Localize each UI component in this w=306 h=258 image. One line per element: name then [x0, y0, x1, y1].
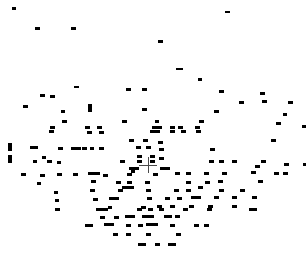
data-point	[204, 224, 209, 227]
data-point	[183, 208, 188, 211]
data-point	[232, 205, 237, 208]
data-point	[137, 155, 142, 158]
data-point	[49, 130, 54, 133]
data-point	[207, 208, 212, 211]
data-point	[55, 208, 60, 211]
data-point	[175, 172, 180, 175]
crosshair-vertical-arm	[148, 157, 149, 173]
data-point	[240, 189, 245, 192]
data-point	[126, 88, 131, 91]
data-point	[186, 181, 191, 184]
data-point	[214, 196, 219, 199]
data-point	[261, 160, 266, 163]
data-point	[97, 126, 102, 129]
data-point	[126, 233, 131, 236]
data-point	[58, 147, 63, 150]
data-point	[251, 171, 256, 174]
data-point	[175, 215, 180, 218]
data-point	[276, 122, 281, 125]
data-point	[118, 189, 123, 192]
data-point	[138, 243, 146, 246]
data-point	[33, 160, 37, 163]
data-point	[283, 172, 288, 175]
data-point	[142, 108, 147, 111]
data-point	[30, 146, 38, 149]
data-point	[177, 197, 182, 200]
data-point	[57, 161, 61, 164]
data-point	[146, 146, 151, 149]
data-point	[152, 126, 162, 129]
data-point	[209, 160, 214, 163]
data-point	[222, 172, 227, 175]
data-point	[219, 189, 224, 192]
data-point	[137, 160, 142, 163]
data-point	[194, 224, 199, 227]
data-point	[271, 139, 276, 142]
data-point	[108, 206, 112, 209]
data-point	[146, 189, 151, 192]
data-point	[150, 160, 155, 163]
data-point	[199, 120, 204, 123]
data-point	[90, 189, 95, 192]
data-point	[302, 125, 306, 128]
data-point	[8, 155, 12, 163]
data-point	[170, 205, 175, 208]
data-point	[131, 170, 135, 173]
data-point	[127, 181, 132, 184]
data-point	[170, 130, 175, 133]
data-point	[218, 180, 223, 183]
data-point	[283, 113, 287, 116]
data-point	[71, 27, 76, 30]
data-point	[191, 196, 201, 199]
data-point	[174, 189, 179, 192]
data-point	[252, 196, 257, 199]
data-point	[99, 131, 104, 134]
data-point	[42, 156, 46, 159]
data-point	[103, 174, 108, 177]
data-point	[150, 130, 160, 133]
data-point	[23, 105, 28, 108]
data-point	[145, 181, 150, 184]
data-point	[198, 78, 202, 81]
data-point	[40, 174, 45, 177]
data-point	[205, 181, 210, 184]
data-point	[159, 157, 164, 160]
data-point	[8, 143, 12, 151]
data-point	[55, 199, 59, 202]
data-point	[138, 224, 143, 227]
data-point	[142, 215, 154, 218]
data-point	[219, 160, 224, 163]
data-point	[146, 223, 158, 226]
data-point	[54, 191, 58, 194]
data-point	[153, 173, 158, 176]
data-point	[71, 147, 81, 150]
data-point	[170, 224, 175, 227]
data-point	[186, 172, 191, 175]
data-point	[35, 27, 40, 30]
data-point	[74, 86, 79, 88]
data-point	[204, 172, 209, 175]
data-point	[196, 130, 201, 133]
data-point	[114, 216, 119, 219]
data-point	[274, 172, 279, 175]
data-point	[99, 147, 104, 150]
data-point	[219, 90, 224, 93]
data-point	[50, 126, 55, 129]
data-point	[176, 233, 181, 236]
data-point	[61, 110, 65, 113]
data-point	[100, 216, 105, 219]
data-point	[158, 40, 163, 43]
data-point	[260, 92, 265, 95]
data-point	[225, 11, 230, 13]
data-point	[136, 146, 141, 149]
data-point	[126, 224, 131, 227]
data-point	[210, 148, 215, 151]
data-point	[73, 173, 78, 176]
data-point	[129, 139, 134, 142]
scatter-plot-canvas[interactable]	[0, 0, 306, 258]
data-point	[57, 173, 62, 176]
data-point	[120, 160, 125, 163]
data-point	[96, 208, 108, 211]
data-point	[47, 160, 52, 163]
data-point	[143, 139, 148, 142]
